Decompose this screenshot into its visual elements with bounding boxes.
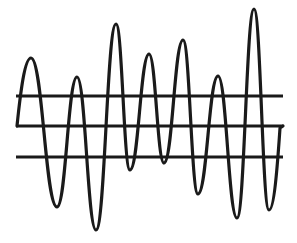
waveform-diagram bbox=[0, 0, 297, 243]
waveform-curve bbox=[17, 9, 283, 230]
